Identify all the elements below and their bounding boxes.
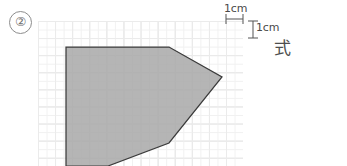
grid-lines	[38, 21, 243, 166]
problem-number-badge: ②	[9, 11, 32, 34]
formula-prompt-label: 式	[274, 40, 291, 57]
dim-vertical-label: 1cm	[256, 21, 279, 34]
dim-horizontal-label: 1cm	[224, 2, 247, 15]
worksheet-page: ② 1cm 1cm 式	[0, 0, 347, 166]
measurement-grid	[38, 21, 243, 166]
